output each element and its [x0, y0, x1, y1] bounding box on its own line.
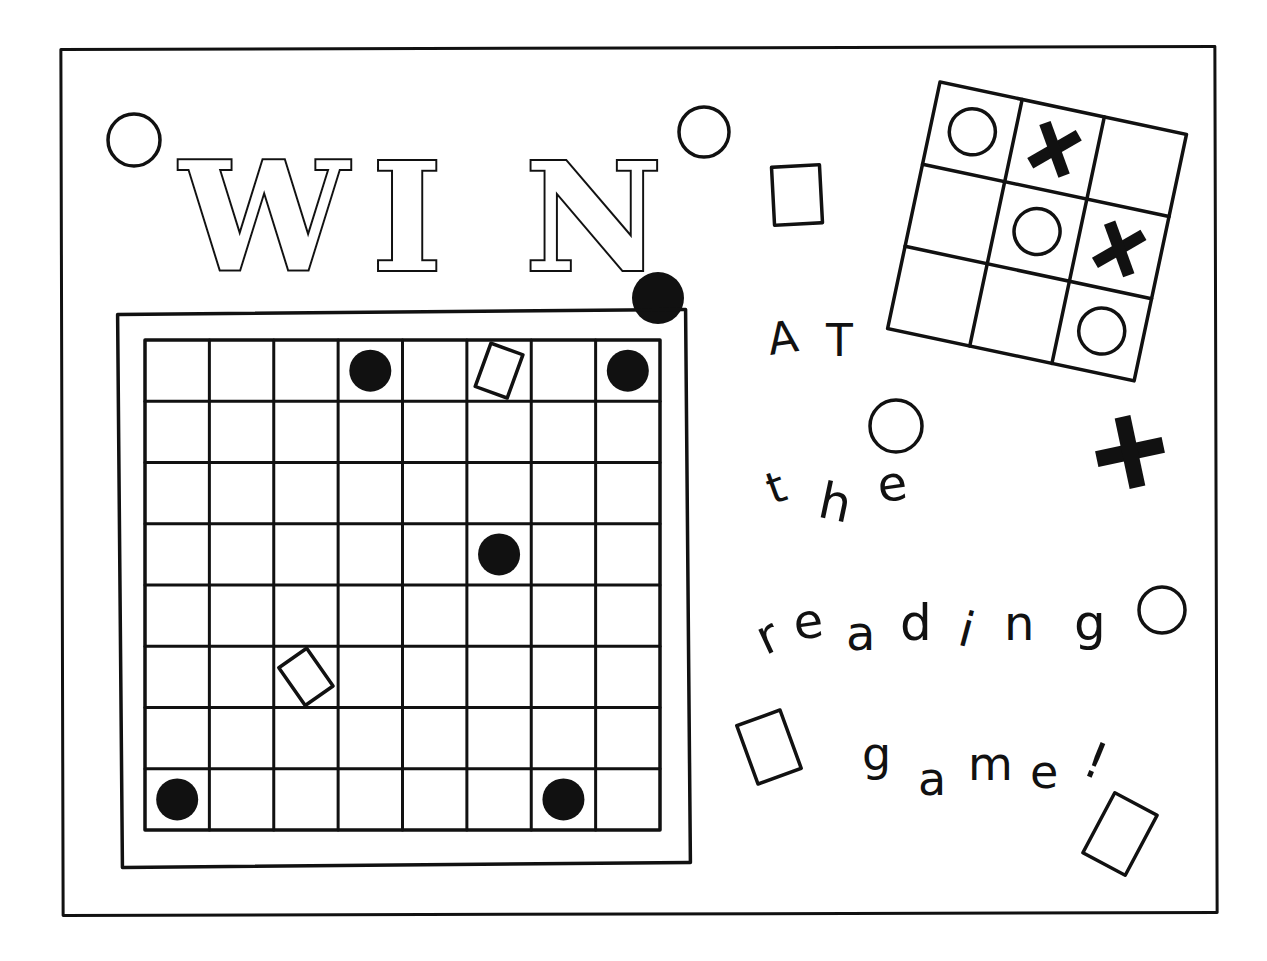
- title-letter-i: I: [372, 129, 442, 305]
- slogan: A T t h e r e a d i n g g a m e !: [746, 310, 1115, 806]
- slogan-reading-n: n: [1004, 595, 1034, 651]
- square-decoration-icon: [737, 710, 801, 784]
- slogan-game-e: e: [1030, 745, 1058, 799]
- circle-decoration-icon: [1139, 587, 1185, 633]
- slogan-the-e: e: [874, 454, 911, 514]
- slogan-game-a: a: [918, 752, 946, 806]
- slogan-reading-g: g: [1074, 594, 1106, 652]
- poster-canvas: W I N A T t h e r e a d i n g g a m e !: [0, 0, 1267, 961]
- slogan-game-m: m: [968, 737, 1013, 791]
- square-decoration-icon: [772, 165, 823, 225]
- o-mark-icon: [1074, 304, 1129, 359]
- circle-decoration-icon: [870, 400, 922, 452]
- slogan-game-g: g: [862, 727, 891, 781]
- slogan-at-t: T: [825, 315, 853, 366]
- x-decoration-icon: [1089, 410, 1170, 495]
- circle-decoration-icon: [108, 114, 160, 166]
- checkerboard: [118, 310, 691, 868]
- title-letter-w: W: [178, 129, 351, 305]
- tictactoe-board: [888, 82, 1187, 381]
- white-square-piece: [279, 648, 333, 705]
- x-mark-icon: [1027, 121, 1081, 178]
- slogan-reading-e: e: [790, 591, 827, 651]
- circle-decoration-icon: [679, 107, 729, 157]
- black-disc-piece: [632, 272, 684, 324]
- slogan-reading-d: d: [900, 594, 932, 652]
- black-disc-piece: [607, 350, 649, 392]
- black-disc-piece: [156, 778, 198, 820]
- square-decoration-icon: [1083, 793, 1157, 876]
- slogan-game-exclaim: !: [1075, 730, 1115, 791]
- slogan-reading-a: a: [846, 605, 875, 661]
- slogan-reading-i: i: [953, 600, 980, 658]
- o-mark-icon: [1010, 204, 1065, 259]
- slogan-the-h: h: [814, 471, 857, 534]
- checkerboard-frame: [118, 310, 691, 868]
- slogan-reading-r: r: [746, 606, 788, 665]
- black-disc-piece: [349, 350, 391, 392]
- slogan-the-t: t: [759, 460, 793, 514]
- black-disc-piece: [478, 533, 520, 575]
- tictactoe-frame: [888, 82, 1187, 381]
- x-mark-icon: [1092, 221, 1146, 278]
- white-square-piece: [475, 343, 523, 398]
- black-disc-piece: [542, 778, 584, 820]
- slogan-at-a: A: [764, 310, 801, 365]
- title-win: W I N: [178, 129, 662, 305]
- o-mark-icon: [945, 105, 1000, 160]
